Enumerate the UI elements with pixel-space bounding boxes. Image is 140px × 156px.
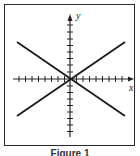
y-axis-arrow-icon bbox=[68, 14, 73, 21]
coordinate-plot: x y bbox=[0, 0, 140, 156]
x-axis-label: x bbox=[128, 82, 134, 93]
x-axis-arrow-icon bbox=[128, 77, 134, 82]
x-axis: x bbox=[13, 76, 134, 93]
y-axis-label: y bbox=[75, 10, 81, 21]
figure-caption: Figure 1 bbox=[0, 149, 140, 156]
